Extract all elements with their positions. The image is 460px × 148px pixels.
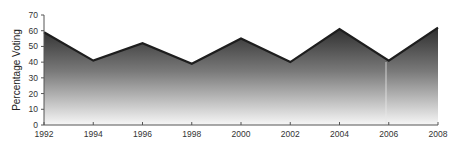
y-tick-label: 50 bbox=[29, 41, 39, 51]
y-tick-label: 70 bbox=[29, 10, 39, 20]
plot-area bbox=[44, 28, 438, 125]
y-tick-label: 10 bbox=[29, 104, 39, 114]
x-tick-label: 2004 bbox=[330, 129, 349, 139]
y-axis: 010203040506070 bbox=[29, 10, 44, 130]
y-tick-label: 40 bbox=[29, 57, 39, 67]
x-tick-label: 2008 bbox=[429, 129, 448, 139]
y-tick-label: 30 bbox=[29, 73, 39, 83]
x-tick-label: 1994 bbox=[84, 129, 103, 139]
x-tick-label: 2000 bbox=[232, 129, 251, 139]
x-tick-label: 1996 bbox=[133, 129, 152, 139]
y-tick-label: 60 bbox=[29, 26, 39, 36]
x-axis: 199219941996199820002002200420062008 bbox=[35, 122, 448, 139]
y-axis-title: Percentage Voting bbox=[11, 29, 22, 111]
x-tick-label: 1992 bbox=[35, 129, 54, 139]
x-tick-label: 2002 bbox=[281, 129, 300, 139]
x-tick-label: 2006 bbox=[379, 129, 398, 139]
area-chart: 010203040506070 199219941996199820002002… bbox=[0, 0, 460, 148]
x-tick-label: 1998 bbox=[182, 129, 201, 139]
area-fill bbox=[44, 28, 438, 125]
y-tick-label: 20 bbox=[29, 89, 39, 99]
